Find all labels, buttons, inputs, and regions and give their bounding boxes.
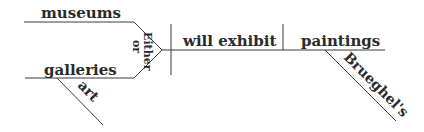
verb-word: will exhibit bbox=[182, 32, 277, 50]
subject-bottom-word: galleries bbox=[44, 61, 117, 79]
subject-top-word: museums bbox=[41, 4, 121, 22]
sentence-diagram: museums galleries will exhibit paintings… bbox=[0, 0, 424, 132]
object-word: paintings bbox=[301, 32, 380, 50]
conjunction-or: or bbox=[130, 40, 143, 53]
brueghels-modifier-word: Brueghel's bbox=[341, 49, 412, 120]
